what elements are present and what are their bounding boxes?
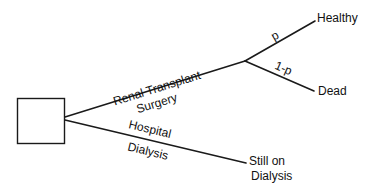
- outcome-dead: Dead: [318, 84, 347, 98]
- dialysis-label-line1: Hospital: [127, 117, 172, 141]
- decision-tree-diagram: Renal Transplant Surgery Hospital Dialys…: [0, 0, 369, 191]
- outcome-still-on-line1: Still on: [249, 154, 285, 168]
- healthy-branch-line: [245, 21, 315, 61]
- decision-node: [18, 99, 65, 144]
- outcome-still-on-line2: Dialysis: [251, 169, 292, 183]
- outcome-healthy: Healthy: [317, 11, 358, 25]
